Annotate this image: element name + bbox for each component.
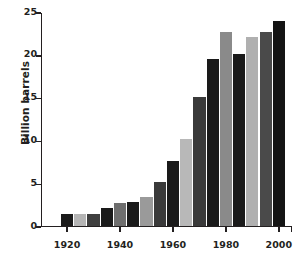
x-tick-mark-2000 (278, 227, 279, 232)
bar-1935 (101, 208, 113, 226)
bar-1965 (180, 139, 192, 225)
x-axis-line (41, 226, 292, 227)
x-tick-mark-1960 (172, 227, 173, 232)
y-tick-label: 5 (30, 178, 37, 188)
bar-2000 (273, 21, 285, 226)
y-tick-label: 0 (30, 221, 37, 231)
y-tick-label: 15 (24, 92, 37, 102)
x-tick-label-2000: 2000 (266, 240, 292, 250)
bar-1955 (154, 182, 166, 226)
bar-1950 (140, 197, 152, 226)
y-tick-label: 25 (24, 7, 37, 17)
x-tick-label-1980: 1980 (213, 240, 239, 250)
bar-chart: Billion barrels 0510152025 1920194019601… (0, 0, 302, 258)
x-tick-label-1940: 1940 (107, 240, 133, 250)
x-tick-mark-1920 (66, 227, 67, 232)
bar-1945 (127, 202, 139, 226)
bar-1930 (87, 214, 99, 226)
bar-1990 (246, 37, 258, 225)
y-tick-label: 10 (24, 135, 37, 145)
y-axis-line (41, 13, 42, 227)
x-tick-label-1920: 1920 (54, 240, 80, 250)
bar-1995 (260, 32, 272, 225)
bar-1970 (193, 97, 205, 225)
x-tick-label-1960: 1960 (160, 240, 186, 250)
bar-1925 (74, 214, 86, 225)
x-axis-end-tick (291, 227, 292, 232)
x-tick-mark-1940 (119, 227, 120, 232)
x-tick-mark-1980 (225, 227, 226, 232)
y-tick-label: 20 (24, 49, 37, 59)
bar-1940 (114, 203, 126, 226)
bar-1980 (220, 32, 232, 225)
bar-1920 (61, 214, 73, 225)
plot-area: 0510152025 19201940196019802000 (41, 13, 292, 227)
bar-1975 (207, 59, 219, 226)
bar-1960 (167, 161, 179, 226)
bar-1985 (233, 54, 245, 225)
